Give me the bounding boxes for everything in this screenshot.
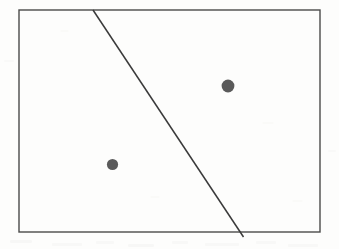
data-point-upper-right bbox=[222, 80, 235, 93]
figure-canvas bbox=[0, 0, 339, 249]
figure-container bbox=[0, 0, 339, 249]
data-point-lower-left bbox=[107, 159, 118, 170]
